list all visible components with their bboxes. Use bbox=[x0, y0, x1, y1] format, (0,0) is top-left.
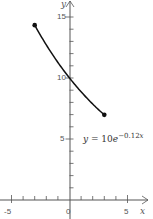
chart-canvas: -5 0 5 x 15 10 5 y bbox=[0, 0, 153, 219]
y-tick-label: 10 bbox=[57, 73, 66, 82]
endpoint-dot bbox=[32, 23, 37, 28]
x-tick-label: 0 bbox=[66, 207, 71, 216]
endpoint-dot bbox=[102, 113, 107, 118]
y-tick-label: 5 bbox=[60, 134, 65, 143]
x-tick-label: 5 bbox=[124, 207, 129, 216]
eq-coef: = 10 bbox=[88, 134, 113, 144]
y-tick-label: 15 bbox=[57, 12, 66, 21]
eq-exponent: −0.12 bbox=[118, 132, 139, 140]
x-tick-label: -5 bbox=[4, 207, 12, 216]
equation-annotation: y = 10e−0.12x bbox=[83, 132, 144, 144]
y-axis-label: y bbox=[60, 0, 67, 9]
x-axis-label: x bbox=[140, 206, 145, 216]
eq-x: x bbox=[140, 132, 144, 140]
